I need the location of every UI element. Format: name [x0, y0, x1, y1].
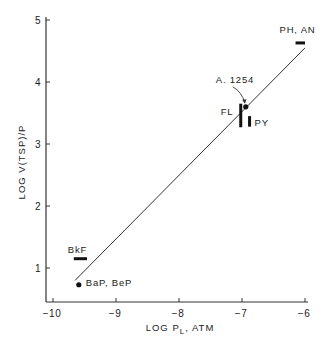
- y-tick-label: 2: [35, 201, 41, 212]
- x-tick-label: −6: [298, 308, 310, 319]
- x-axis-title-main: LOG P: [146, 322, 180, 333]
- x-axis-title: LOG PL, ATM: [146, 322, 215, 336]
- x-tick-label: −8: [172, 308, 184, 319]
- y-tick-label: 5: [35, 15, 41, 26]
- label-fl: FL: [221, 106, 234, 117]
- series: [74, 43, 305, 287]
- x-tick-label: −10: [43, 308, 61, 319]
- data-point: [76, 282, 81, 287]
- y-tick-label: 1: [35, 263, 41, 274]
- data-point: [243, 104, 248, 109]
- label-bkf: BkF: [68, 244, 87, 255]
- regression-line: [75, 48, 305, 281]
- ticks: 12345−10−9−8−7−6: [35, 15, 310, 320]
- x-tick-label: −9: [109, 308, 121, 319]
- label-py: PY: [255, 117, 269, 128]
- y-tick-label: 4: [35, 77, 41, 88]
- arrowhead-icon: [242, 99, 246, 104]
- label-bap-bep: BaP, BeP: [86, 277, 132, 288]
- annotations: BkFBaP, BePPH, ANFLPYA. 1254: [68, 24, 316, 288]
- label-ph-an: PH, AN: [280, 24, 316, 35]
- y-tick-label: 3: [35, 139, 41, 150]
- chart: 12345−10−9−8−7−6 BkFBaP, BePPH, ANFLPYA.…: [0, 0, 329, 353]
- x-tick-label: −7: [235, 308, 247, 319]
- label-aroclor-1254: A. 1254: [216, 74, 254, 85]
- x-axis-title-tail: , ATM: [185, 322, 214, 333]
- y-axis-title: LOG V(TSP)/P: [16, 125, 27, 200]
